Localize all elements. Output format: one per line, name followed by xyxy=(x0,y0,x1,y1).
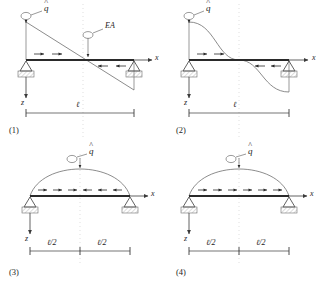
load-leader-loop xyxy=(226,155,236,162)
panel-number: (4) xyxy=(176,268,186,277)
support-left-triangle xyxy=(183,197,195,207)
x-axis-label: x xyxy=(312,54,316,62)
panel-2: ^q x z ℓ (2) xyxy=(167,0,334,144)
hat-accent: ^ xyxy=(248,142,252,150)
panel-number: (2) xyxy=(176,126,186,135)
x-axis-label: x xyxy=(310,190,314,198)
span-label-right: ℓ/2 xyxy=(256,239,266,247)
stiffness-leader-loop xyxy=(83,32,93,39)
panel-1: ^q EA x z ℓ (1) xyxy=(0,0,167,144)
load-label: ^q xyxy=(248,147,253,156)
support-right-triangle xyxy=(283,197,295,207)
panel-number: (1) xyxy=(9,126,19,135)
stiffness-leader-line xyxy=(93,29,103,33)
stiffness-label: EA xyxy=(105,22,115,30)
support-right-triangle xyxy=(124,197,136,207)
support-left-triangle xyxy=(20,61,32,71)
support-right-ground xyxy=(281,207,297,213)
panel-4: ^q x z ℓ/2 ℓ/2 (4) xyxy=(167,144,334,288)
load-leader-loop xyxy=(67,155,77,162)
hat-accent: ^ xyxy=(206,0,210,7)
z-axis-label: z xyxy=(184,99,187,107)
x-axis-label: x xyxy=(155,54,159,62)
span-label-left: ℓ/2 xyxy=(47,239,57,247)
load-label: ^q xyxy=(206,4,211,13)
load-leader-loop xyxy=(184,12,194,19)
span-label-right: ℓ/2 xyxy=(97,239,107,247)
span-label-left: ℓ/2 xyxy=(206,239,216,247)
z-axis-label: z xyxy=(21,99,24,107)
support-left-triangle xyxy=(24,197,36,207)
panel-3: ^q x z ℓ/2 ℓ/2 (3) xyxy=(0,144,167,288)
load-label: ^q xyxy=(89,147,94,156)
z-axis-label: z xyxy=(184,235,187,243)
support-left-ground xyxy=(181,71,197,77)
support-right-ground xyxy=(126,71,142,77)
load-leader-line xyxy=(31,11,42,15)
beam-load-figure: ^q EA x z ℓ (1) xyxy=(0,0,334,288)
support-right-ground xyxy=(281,71,297,77)
panel-number: (3) xyxy=(9,268,19,277)
support-left-triangle xyxy=(183,61,195,71)
span-label: ℓ xyxy=(76,101,79,109)
hat-accent: ^ xyxy=(44,0,48,7)
x-axis-label: x xyxy=(151,190,155,198)
support-left-ground xyxy=(22,207,38,213)
support-left-ground xyxy=(181,207,197,213)
load-leader-line xyxy=(236,154,246,157)
load-profile-line xyxy=(26,22,134,90)
support-right-ground xyxy=(122,207,138,213)
z-axis-label: z xyxy=(25,235,28,243)
load-label: ^q xyxy=(44,4,49,13)
load-leader-line xyxy=(194,11,204,15)
load-leader-line xyxy=(77,154,87,157)
span-label: ℓ xyxy=(233,101,236,109)
support-left-ground xyxy=(18,71,34,77)
load-leader-loop xyxy=(21,12,31,19)
hat-accent: ^ xyxy=(89,142,93,150)
